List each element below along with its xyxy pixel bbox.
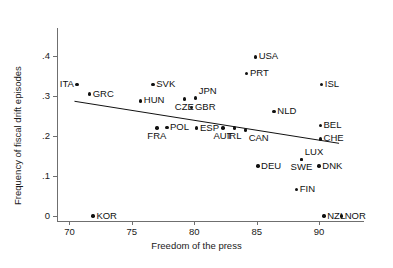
scatter-plot: 0.1.2.3.47075808590 ITAGRCKORHUNSVKCZEJP… — [0, 0, 393, 268]
x-axis-label: Freedom of the press — [0, 240, 393, 251]
y-axis-label: Frequency of fiscal drift episodes — [12, 66, 23, 205]
fit-line — [0, 0, 393, 268]
